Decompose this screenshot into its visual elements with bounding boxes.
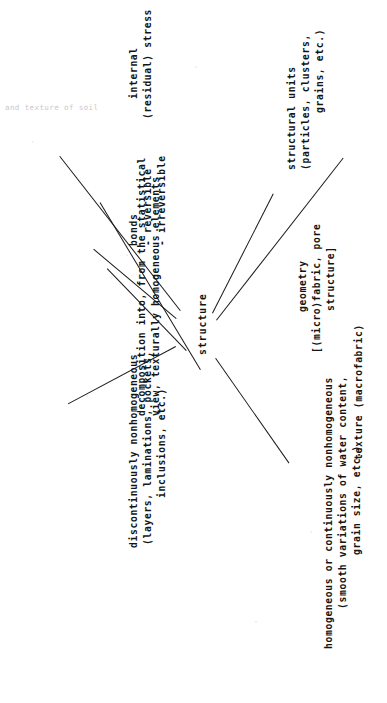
figure-viewport: and texture of soil structure texture (m… [0, 0, 387, 703]
paper-speck [126, 254, 128, 256]
branch-label-bonds: bonds [127, 214, 140, 246]
branch-label-structural-units: structural units [285, 66, 298, 170]
branch-label-geometry-line-3: structure] [324, 246, 337, 311]
branch-label-homogeneous-line-1: homogeneous or continuously nonhomogeneo… [322, 377, 335, 649]
branch-label-texture: texture (macrofabric) [352, 324, 365, 460]
paper-speck [310, 531, 312, 533]
header-fragment: and texture of soil [5, 101, 98, 114]
branch-label-geometry: geometry [296, 260, 309, 312]
branch-label-homogeneous-line-3: grain size, etc.) [350, 445, 363, 555]
paper-speck [86, 395, 88, 397]
branch-label-homogeneous-line-2: (smooth variations of water content, [336, 376, 349, 609]
paper-speck [32, 141, 34, 143]
branch-label-structural-units-line-3: grains, etc.) [313, 29, 326, 113]
connector-line-grain-size [215, 358, 289, 463]
branch-label-bonds-irreversible: - irreversible [155, 155, 168, 246]
paper-speck [195, 66, 197, 68]
branch-label-stress-line-2: (residual) stress [141, 9, 154, 119]
diagram-page: and texture of soil structure texture (m… [0, 0, 387, 703]
paper-speck [255, 621, 257, 623]
branch-label-stress-line-1: internal [127, 47, 140, 99]
connector-line-geometry [212, 194, 274, 314]
branch-label-geometry-line-2: [(micro)fabric, pore [310, 223, 323, 353]
branch-label-structural-units-line-2: (particles, clusters, [299, 34, 312, 170]
center-node-structure: structure [196, 293, 209, 355]
branch-label-bonds-reversible: - reversible [141, 168, 154, 246]
